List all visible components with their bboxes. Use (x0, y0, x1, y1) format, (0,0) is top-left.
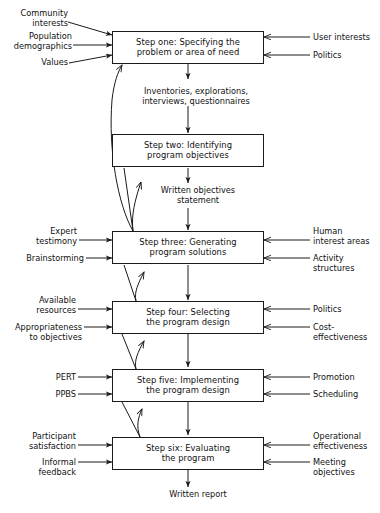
input-label-cost-effectiveness: Cost- effectiveness (313, 323, 380, 343)
step-box-five[interactable]: Step five: Implementing the program desi… (112, 369, 264, 402)
input-label-informal-feedback: Informal feedback (0, 458, 76, 478)
step-box-two[interactable]: Step two: Identifying program objectives (112, 134, 264, 167)
input-label-politics-four: Politics (313, 305, 380, 315)
input-label-promotion: Promotion (313, 373, 380, 383)
flowchart-diagram: Step one: Specifying the problem or area… (0, 0, 380, 513)
connector-label-two-three: Written objectives statement (136, 185, 260, 205)
input-label-user-interests: User interests (313, 33, 379, 43)
step-box-one[interactable]: Step one: Specifying the problem or area… (112, 31, 264, 64)
input-label-activity-structures: Activity structures (313, 254, 380, 274)
step-box-three[interactable]: Step three: Generating program solutions (112, 231, 264, 264)
input-label-politics-one: Politics (313, 51, 379, 61)
input-label-population-demographics: Population demographics (0, 32, 72, 52)
input-label-available-resources: Available resources (0, 296, 76, 316)
input-label-human-interest-areas: Human interest areas (313, 227, 380, 247)
input-label-ppbs: PPBS (0, 390, 76, 400)
step-box-six[interactable]: Step six: Evaluating the program (112, 437, 264, 470)
input-label-operational-effectiveness: Operational effectiveness (313, 432, 380, 452)
input-label-community-interests: Community interests (0, 9, 68, 29)
input-label-meeting-objectives: Meeting objectives (313, 458, 380, 478)
input-label-pert: PERT (0, 373, 76, 383)
connector-label-one-two: Inventories, explorations, interviews, q… (126, 86, 266, 106)
input-label-scheduling: Scheduling (313, 390, 380, 400)
input-label-participant-satisfaction: Participant satisfaction (0, 432, 76, 452)
input-label-appropriateness-to-objectives: Appropriateness to objectives (0, 323, 82, 343)
step-box-four[interactable]: Step four: Selecting the program design (112, 301, 264, 334)
input-label-values: Values (0, 58, 68, 68)
input-label-expert-testimony: Expert testimony (0, 227, 77, 247)
connector-label-written-report: Written report (136, 489, 260, 499)
input-label-brainstorming: Brainstorming (0, 254, 84, 264)
